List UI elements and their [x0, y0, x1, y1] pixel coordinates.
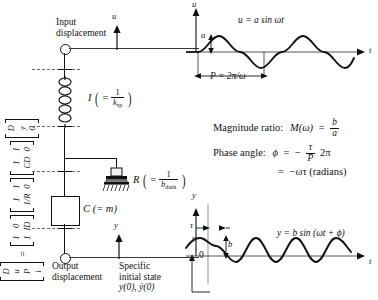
output-chart-amplitude-label: b — [228, 240, 232, 250]
input-displacement-label: Input displacement — [56, 17, 106, 38]
matrix-equals-sign: = — [17, 249, 28, 259]
damper-label: R ( = 1 bdash ) — [133, 170, 186, 190]
rail-top — [64, 53, 65, 78]
matrix-lhs-vector: Du Pi — [0, 262, 44, 281]
magnitude-denominator: a — [330, 129, 339, 139]
spring-icon — [54, 76, 76, 128]
damper-symbol: R — [133, 174, 139, 185]
matrix-b1-r2c2: ID — [22, 221, 33, 230]
input-u-symbol: u — [112, 12, 116, 22]
mass-block-icon — [51, 196, 80, 226]
matrix-lhs-top-sub: u — [11, 268, 22, 274]
matrix-block-2: 1 1/R 1 0 — [10, 178, 33, 212]
magnitude-ratio-line: Magnitude ratio: M(ω) = b a — [213, 118, 339, 138]
phase-alt-equals: = — [278, 166, 284, 177]
rail-mid-2 — [64, 159, 65, 196]
phase-denominator: P — [306, 154, 316, 164]
matrix-b3-r1c2: 1 — [11, 147, 22, 151]
figure-canvas: Du Pi = 1 1 0 ID 1 1/R 1 0 — [0, 0, 378, 300]
phase-angle-line: Phase angle: ϕ = − τ P 2π — [213, 143, 330, 163]
matrix-b3-r1c1: 1 — [11, 157, 22, 169]
initial-state-line3: y(0), ẏ(0) — [119, 282, 161, 293]
matrix-b1-r1c1: 1 — [11, 235, 22, 239]
phase-tail: 2π — [320, 147, 331, 158]
matrix-b2-r2c2: 0 — [22, 184, 33, 188]
spring-denominator: ksp — [111, 98, 124, 108]
dash-line-1 — [32, 69, 80, 70]
phase-numerator: τ — [306, 143, 316, 154]
matrix-lhs-bottom-sub: i — [33, 268, 44, 274]
matrix-b3-r2c2: 0 — [22, 147, 33, 151]
phase-symbol: ϕ — [272, 147, 277, 158]
matrix-b1-r2c1: 1 — [22, 235, 33, 239]
matrix-b2-r1c2: 1 — [11, 184, 22, 188]
dash-line-3 — [32, 171, 80, 172]
magnitude-ratio-label: Magnitude ratio: — [213, 122, 283, 133]
matrix-rhs-top-sub: y — [17, 125, 28, 131]
input-chart-xlabel: t — [369, 46, 371, 56]
input-chart-amplitude-label: a — [201, 31, 205, 41]
phase-angle-alt-line: = −ωτ (radians) — [278, 166, 347, 178]
rail-tick-3 — [58, 171, 72, 172]
dash-line-4 — [32, 228, 80, 229]
input-u-arrow — [110, 24, 124, 50]
matrix-b2-r2c1: 1/R — [22, 194, 33, 206]
input-chart-ylabel: u — [192, 0, 196, 10]
damper-paren-close: ) — [182, 171, 186, 190]
rail-tick-4 — [58, 228, 72, 229]
input-node — [60, 44, 71, 55]
output-wave-chart — [186, 198, 378, 290]
initial-state-label: Specific initial state y(0), ẏ(0) — [119, 261, 161, 293]
matrix-b1-r1c2: 0 — [11, 221, 22, 230]
magnitude-fraction: b a — [330, 118, 339, 138]
matrix-b3-r2c1: CD — [22, 157, 33, 169]
matrix-lhs-top: D — [1, 268, 12, 274]
phase-fraction: τ P — [306, 143, 316, 163]
spring-label: I ( = 1 ksp ) — [88, 88, 132, 108]
mass-equals: (= m) — [93, 203, 117, 214]
magnitude-equals: = — [319, 122, 325, 133]
phase-equals: = — [283, 147, 289, 158]
spring-symbol: I — [88, 92, 92, 103]
spring-fraction: 1 ksp — [111, 88, 124, 107]
rail-tick-1 — [58, 69, 72, 70]
output-chart-origin-label: 0 — [199, 250, 204, 261]
mass-label: C (= m) — [83, 203, 117, 215]
matrix-rhs-vector: Dy 0 — [5, 119, 39, 138]
output-displacement-label: Output displacement — [52, 261, 102, 282]
rail-mid-1 — [64, 128, 65, 158]
phase-angle-label: Phase angle: — [213, 147, 266, 158]
output-chart-equation: y = b sin (ωt + ϕ) — [277, 228, 345, 239]
input-rail — [69, 48, 199, 49]
output-label-line1: Output — [52, 261, 102, 272]
damper-equals: = — [150, 174, 156, 185]
matrix-block-1: 1 1 0 ID — [10, 215, 33, 246]
matrix-equation: Du Pi = 1 1 0 ID 1 1/R 1 0 — [9, 29, 35, 281]
initial-state-line2: initial state — [119, 272, 161, 283]
damper-paren-open: ( — [143, 171, 147, 190]
output-chart-lag-label: τ — [190, 221, 193, 231]
spring-equals: = — [102, 92, 108, 103]
magnitude-numerator: b — [330, 118, 339, 129]
matrix-block-3: 1 CD 1 0 — [10, 141, 33, 175]
output-chart-ylabel: y — [192, 191, 196, 201]
damper-icon — [103, 168, 130, 194]
input-label-line1: Input — [56, 17, 106, 28]
damper-denominator: bdash — [159, 180, 178, 190]
phase-alt-value: −ωτ (radians) — [290, 166, 347, 177]
matrix-b2-r1c1: 1 — [11, 194, 22, 206]
phase-minus-sign: − — [295, 147, 301, 158]
input-chart-equation: u = a sin ωt — [238, 15, 284, 26]
input-chart-period-label: P = 2π/ω — [210, 71, 246, 82]
output-y-arrow — [112, 233, 126, 259]
matrix-lhs-bottom: P — [22, 268, 33, 274]
output-chart-xlabel: t — [369, 257, 371, 267]
input-label-line2: displacement — [56, 28, 106, 39]
initial-state-line1: Specific — [119, 261, 161, 272]
spring-paren-close: ) — [128, 89, 132, 108]
output-label-line2: displacement — [52, 272, 102, 283]
output-y-symbol: y — [114, 221, 118, 231]
mass-symbol: C — [83, 203, 90, 214]
magnitude-symbol: M(ω) — [290, 122, 313, 133]
matrix-rhs-top: D — [6, 125, 17, 131]
